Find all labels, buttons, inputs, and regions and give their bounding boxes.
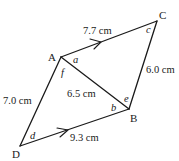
angle-label-b: b bbox=[111, 102, 116, 113]
length-label-db: 9.3 cm bbox=[70, 132, 99, 143]
length-label-cb: 6.0 cm bbox=[146, 64, 175, 75]
side-ab-diagonal bbox=[61, 57, 129, 109]
angle-label-d: d bbox=[30, 130, 36, 141]
angle-label-a: a bbox=[73, 54, 78, 65]
quadrilateral-diagram: A C B D 7.7 cm 6.0 cm 6.5 cm 7.0 cm 9.3 … bbox=[0, 0, 179, 161]
angle-label-c: c bbox=[146, 24, 151, 35]
angle-label-e: e bbox=[124, 93, 129, 104]
angle-label-f: f bbox=[61, 67, 66, 78]
vertex-label-d: D bbox=[12, 148, 20, 160]
vertex-label-a: A bbox=[48, 51, 56, 63]
length-label-ab: 6.5 cm bbox=[67, 88, 96, 99]
vertex-label-c: C bbox=[159, 9, 166, 21]
length-label-ad: 7.0 cm bbox=[3, 95, 32, 106]
vertex-label-b: B bbox=[130, 112, 137, 124]
length-label-ac: 7.7 cm bbox=[83, 25, 112, 36]
